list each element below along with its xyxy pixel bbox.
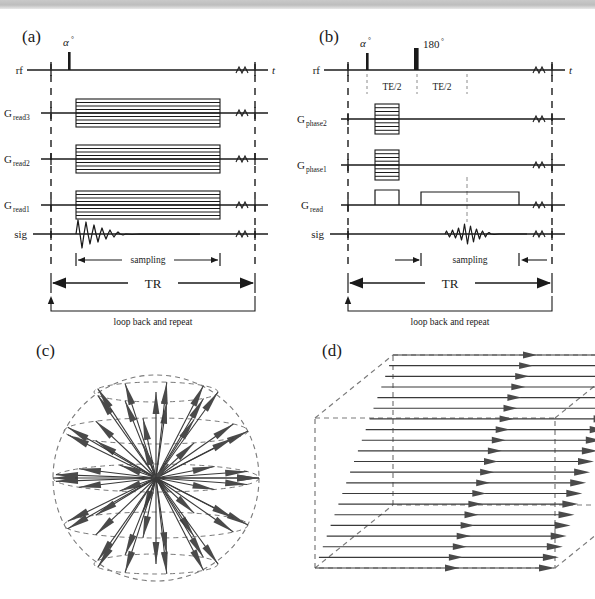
kspace-readout-arrowhead — [461, 522, 475, 529]
channel-gread-b: G read — [301, 190, 565, 214]
channel-label-gread3-sub: read3 — [13, 113, 30, 122]
sampling-arrow-left-b — [413, 257, 420, 263]
figure-canvas: (a) rf α ° t G read3 — [0, 0, 595, 599]
channel-sig-b: sig — [311, 224, 565, 244]
panel-a-label: (a) — [22, 27, 41, 46]
gread-readout-lobe — [421, 192, 519, 205]
sampling-arrow-right — [211, 257, 218, 263]
kspace-readout-arrowhead — [582, 447, 595, 454]
channel-label-gread3-base: G — [4, 107, 12, 119]
sampling-arrow-left — [78, 257, 85, 263]
kspace-readout-arrowhead — [465, 511, 479, 518]
channel-label-gphase1-sub: phase1 — [306, 165, 327, 174]
radial-spoke-arrowhead — [227, 512, 248, 525]
sampling-label-b: sampling — [453, 255, 488, 265]
kspace-readout-arrowhead — [480, 469, 494, 476]
time-axis-label-b: t — [569, 64, 573, 76]
radial-spoke-arrowhead — [202, 544, 218, 564]
channel-label-rf: rf — [16, 64, 24, 76]
kspace-readout-arrowhead — [457, 533, 471, 540]
channel-label-rf-b: rf — [313, 64, 321, 76]
tr-annotation: TR — [51, 273, 255, 293]
radial-spoke-arrowhead — [190, 386, 203, 407]
kspace-readout-arrowhead — [476, 479, 490, 486]
sampling-annotation-b: sampling — [395, 253, 547, 266]
loop-back-arrowhead — [48, 296, 54, 304]
kspace-readout-arrowhead — [566, 490, 582, 497]
radial-spoke-arrowhead — [225, 480, 247, 487]
kspace-readout-arrowhead — [590, 426, 595, 433]
radial-spoke-arrowhead — [225, 470, 247, 477]
channel-label-sig-b: sig — [311, 228, 324, 240]
rf-180-label: 180 — [423, 38, 440, 50]
cartesian-kspace-cube — [315, 351, 595, 571]
time-axis-label: t — [272, 64, 276, 76]
channel-label-gread2-sub: read2 — [13, 159, 30, 168]
rf-alpha-degree-b: ° — [368, 36, 371, 45]
gphase2-gradient-block — [375, 104, 399, 134]
kspace-readout-arrowhead — [484, 458, 498, 465]
channel-gphase2: G phase2 — [297, 104, 565, 134]
kspace-readout-arrowhead — [488, 447, 502, 454]
channel-label-gread1-sub: read1 — [13, 205, 30, 214]
kspace-readout-arrowhead — [468, 501, 482, 508]
kspace-readout-arrowhead — [523, 352, 537, 359]
channel-gread3: G read3 — [4, 99, 268, 127]
kspace-readout-arrowhead — [445, 565, 459, 572]
channel-sig: sig — [14, 220, 268, 248]
rf-alpha-pulse — [68, 52, 71, 70]
gread-dephase-lobe — [375, 190, 399, 205]
tr-label: TR — [145, 276, 162, 291]
loop-back-path-b — [348, 296, 552, 311]
radial-spoke-arrowhead — [79, 481, 101, 488]
sampling-label: sampling — [131, 255, 166, 265]
kspace-readout-arrowhead — [578, 458, 594, 465]
radial-spoke-arrowhead — [212, 505, 233, 518]
radial-spoke-arrowhead — [161, 382, 168, 404]
loop-back-arrowhead-b — [345, 296, 351, 304]
rf-180-pulse — [414, 48, 419, 70]
panel-a: (a) rf α ° t G read3 — [0, 22, 300, 322]
channel-label-gphase2-sub: phase2 — [306, 119, 327, 128]
kspace-readout-arrowhead — [507, 394, 521, 401]
kspace-readout-arrowhead — [551, 532, 567, 539]
kspace-readout-arrowhead — [519, 362, 533, 369]
panel-c-label: (c) — [36, 341, 55, 360]
loop-back-path — [51, 296, 255, 311]
kspace-readout-arrowhead — [504, 405, 518, 412]
kspace-readout-arrowhead — [562, 501, 578, 508]
radial-spoke-arrowhead — [125, 551, 135, 573]
tr-arrow-right — [240, 278, 254, 289]
tr-annotation-b: TR — [348, 273, 552, 293]
radial-spoke-arrowhead — [125, 383, 135, 405]
tr-arrow-right-b — [537, 278, 551, 289]
radial-spoke-arrowhead — [143, 516, 151, 538]
channel-gphase1: G phase1 — [297, 150, 565, 180]
kspace-readout-arrowhead — [492, 437, 506, 444]
rf-180-degree: ° — [441, 37, 444, 46]
radial-spoke-arrowhead — [96, 517, 114, 535]
kspace-readout-arrowhead — [543, 554, 559, 561]
channel-label-gread-base: G — [301, 199, 309, 211]
tr-arrow-left — [52, 278, 66, 289]
kspace-readout-arrowhead — [449, 554, 463, 561]
channel-label-gread2-base: G — [4, 153, 12, 165]
kspace-readout-arrowhead — [559, 511, 575, 518]
loop-back-annotation-b: loop back and repeat — [345, 296, 552, 327]
kspace-readout-lines — [315, 351, 595, 571]
gphase1-gradient-block — [375, 150, 399, 180]
rf-alpha-pulse-b — [366, 53, 369, 70]
radial-spokes — [53, 382, 259, 574]
panel-b-label: (b) — [319, 27, 339, 46]
channel-label-gphase2-base: G — [297, 113, 305, 125]
channel-label-gphase1-base: G — [297, 159, 305, 171]
kspace-readout-arrowhead — [500, 416, 514, 423]
sampling-arrow-right-b — [521, 257, 528, 263]
kspace-readout-arrowhead — [511, 384, 525, 391]
rf-alpha-label: α — [63, 36, 69, 48]
rf-alpha-label-b: α — [360, 37, 366, 49]
channel-gread2: G read2 — [4, 145, 268, 173]
kspace-readout-arrowhead — [496, 426, 510, 433]
panel-d-label: (d) — [322, 341, 342, 360]
channel-rf: rf α ° t — [16, 35, 276, 76]
